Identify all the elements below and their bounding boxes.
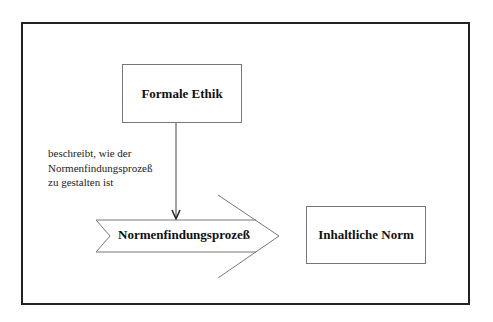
edge-label-line: beschreibt, wie der <box>48 146 152 161</box>
formal-ethics-box: Formale Ethik <box>122 64 242 123</box>
chevron-notch <box>96 220 110 252</box>
process-label: Normenfindungsprozeß <box>118 227 250 243</box>
edge-label-line: Normenfindungsprozeß <box>48 161 152 176</box>
content-norm-label: Inhaltliche Norm <box>318 227 414 243</box>
content-norm-box: Inhaltliche Norm <box>306 206 426 264</box>
edge-label-line: zu gestalten ist <box>48 175 152 190</box>
formal-ethics-label: Formale Ethik <box>141 86 222 102</box>
edge-label: beschreibt, wie der Normenfindungsprozeß… <box>48 146 152 190</box>
